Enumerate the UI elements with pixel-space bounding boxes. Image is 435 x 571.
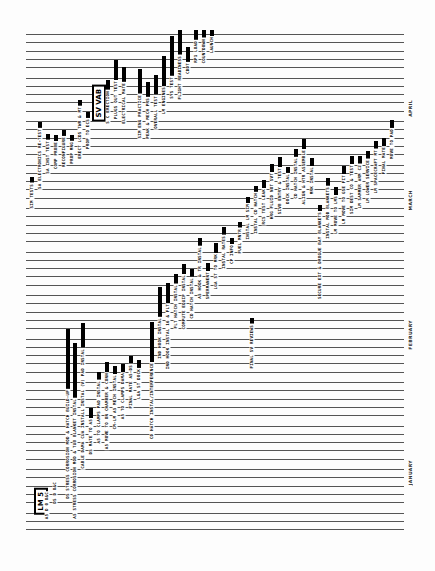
task-label: CM-LM A5 MECH INSTAL [113, 374, 118, 430]
task-label: SA ELECTRONICS RE-TEST [38, 128, 43, 190]
task-label: A5 STRESS CORROSION MOD & TUB BLANKET IN… [73, 398, 78, 520]
schedule-task: SIVB ENTRY & TEST [278, 157, 283, 215]
task-label: ALIGN & HTR ASSEMBLE [302, 149, 307, 205]
task-duration-bar [154, 75, 158, 95]
schedule-task: PLUGS OUT TEST [114, 60, 119, 120]
task-duration-bar [222, 227, 226, 235]
schedule-task: RECONFIGURE [62, 130, 67, 168]
schedule-task: SYS TEST [170, 36, 175, 100]
month-label: JANUARY [408, 460, 413, 485]
grid-rule [26, 320, 404, 321]
schedule-task: MRK INSTAL [310, 158, 315, 195]
schedule-task: DS MATE TO A5 [89, 408, 94, 455]
schedule-task: CM-LM A5 MECH INSTAL [113, 366, 118, 430]
schedule-task: SA INST TEST [46, 134, 51, 175]
grid-rule [26, 312, 404, 313]
task-duration-bar [334, 187, 338, 195]
grid-rule [26, 198, 404, 199]
grid-rule [26, 67, 404, 68]
task-label: LM SAMMER ARM C2 [358, 164, 363, 210]
grid-rule [26, 225, 404, 226]
grid-rule [26, 51, 404, 52]
schedule-task: DS STRESS CORROSION MOD & HATCH BUILD-UP [66, 329, 71, 500]
task-duration-bar [342, 166, 346, 174]
task-label: CD HATCH INSTAL [294, 157, 299, 200]
task-label: A5 TO CLAMPS DAMA [121, 372, 126, 420]
schedule-task: RP1 LOAD [194, 30, 199, 64]
grid-rule [26, 165, 404, 166]
task-label: SECURE EXT & DROGUE BAY BLANKETS [318, 211, 323, 300]
schedule-task: PROP TO ECS [86, 112, 91, 150]
task-duration-bar [198, 238, 202, 246]
grid-rule [26, 295, 404, 296]
schedule-task: PEAK & MECH PRS [146, 82, 151, 140]
task-duration-bar [97, 372, 101, 380]
schedule-task: SA ELECTRONICS RE-TEST [38, 122, 43, 190]
grid-rule [26, 181, 404, 182]
task-duration-bar [146, 82, 150, 97]
schedule-task: IND HOOK INSTAL 16 & FLT [166, 283, 171, 370]
schedule-task: OVERALL TEST [154, 75, 159, 130]
task-label: S C ERECTION [106, 90, 111, 125]
schedule-task: COMPUTE EQUIP INSTAL [182, 264, 187, 330]
task-label: INSTAL LM SIM [246, 203, 251, 240]
task-label: DS STRESS CORROSION MOD & HATCH BUILD-UP [66, 389, 71, 500]
task-duration-bar [190, 269, 194, 277]
schedule-task: LGA ST DOCK [137, 360, 142, 400]
task-label: LM SPACECRAFT MT [374, 149, 379, 195]
task-label: FINAL SV REVIEWS [250, 324, 255, 370]
grid-rule [26, 138, 404, 139]
scanned-schedule-page: APRILMARCHFEBRUARYJANUARY LM 5SV VAB A5 … [0, 0, 435, 571]
schedule-task: INSTAL RATES [222, 227, 227, 270]
schedule-task: ELECTRICAL MATE [122, 67, 127, 125]
schedule-task: HRG FLUID NOT SVT [270, 164, 275, 220]
task-label: SYS TEST [170, 76, 175, 100]
task-label: PEAK & MECH PRS [146, 97, 151, 140]
task-label: ERECT LCDS TWR & MT [78, 106, 83, 160]
task-label: FINAL MATE A5-DS [129, 364, 134, 410]
schedule-task: CD HATCH INSTAL [190, 269, 195, 320]
task-label: LM ENGINES [162, 86, 167, 115]
task-label: IND HOOK INSTAL 16 & FLT [166, 303, 171, 370]
task-label: A5 HOOK & TR INSTAL [198, 246, 203, 300]
grid-rule [26, 513, 404, 514]
task-label: MOVE TO PAD [390, 128, 395, 160]
task-label: COMPUTE EQUIP INSTAL [182, 274, 187, 330]
task-label: INSTAL RATES [222, 235, 227, 270]
schedule-task: INSTAL MOD BLANKETS [326, 178, 331, 240]
schedule-task: INSTAL LM SIM [246, 197, 251, 240]
task-label: RCS TEST LEAK [262, 188, 267, 225]
task-duration-bar [358, 156, 362, 164]
task-duration-bar [81, 323, 85, 348]
task-label: RECONFIGURE [62, 136, 67, 168]
month-label: MARCH [408, 190, 413, 211]
schedule-task: FINAL MATE A5-DS [129, 356, 134, 410]
schedule-task: S C ERECTION [106, 80, 111, 125]
schedule-task: FLT HATCH INSTAL [174, 274, 179, 330]
task-label: SIVB ENTRY & TEST [278, 167, 283, 215]
task-label: OVERALL TEST [154, 95, 159, 130]
grid-rule [26, 494, 404, 495]
grid-rule [26, 216, 404, 217]
schedule-task: FUEL MNTR [238, 222, 243, 255]
schedule-task: A5 STRESS CORROSION MOD & TUB BLANKET IN… [73, 343, 78, 520]
grid-rule [26, 154, 404, 155]
schedule-task: CP INFO [230, 238, 235, 265]
task-label: LGA ST DOCK [137, 368, 142, 400]
task-label: CDDT [186, 62, 191, 75]
task-label: LM LOWER SERVICE [366, 159, 371, 205]
schedule-task: SIM DEST CO & TEST [350, 156, 355, 215]
grid-rule [26, 146, 404, 147]
task-duration-bar [382, 138, 386, 146]
schedule-task: MOVE TO PAD [390, 120, 395, 160]
grid-rule [26, 34, 404, 35]
task-duration-bar [113, 366, 117, 374]
schedule-task: COUNTDOWN [202, 30, 207, 65]
grid-rule [26, 529, 404, 530]
task-label: PROP MNG [70, 141, 75, 165]
task-duration-bar [194, 30, 198, 40]
task-label: DS MATE TO A5 [89, 418, 94, 455]
schedule-task: IND HOOK INSTAL [158, 287, 163, 360]
task-label: FLT HATCH INSTAL [174, 284, 179, 330]
task-label: A5 TO CLAMPS PAD INSTAL [97, 380, 102, 445]
